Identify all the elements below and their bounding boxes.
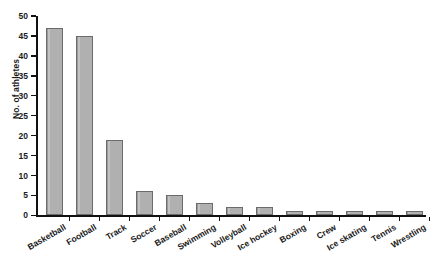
y-tick-label: 30 (19, 91, 28, 100)
y-tick-label: 20 (19, 131, 28, 140)
x-tick (339, 217, 340, 221)
y-tick: 20 (31, 135, 36, 136)
y-tick: 35 (31, 75, 36, 76)
x-tick-label-text: Basketball (26, 222, 68, 252)
x-tick-label: Basketball (26, 222, 68, 252)
bar (136, 191, 153, 215)
y-tick-label: 35 (19, 72, 28, 81)
bar-chart: No. of athletes 05101520253035404550 Bas… (0, 0, 432, 272)
x-tick (309, 217, 310, 221)
y-tick: 30 (31, 95, 36, 96)
x-tick (189, 217, 190, 221)
x-tick (219, 217, 220, 221)
y-tick: 45 (31, 35, 36, 36)
bar (46, 28, 63, 215)
y-tick: 40 (31, 55, 36, 56)
y-tick-label: 15 (19, 151, 28, 160)
x-tick (399, 217, 400, 221)
bar (196, 203, 213, 215)
x-tick-label-text: Track (104, 222, 128, 242)
y-tick: 15 (31, 155, 36, 156)
x-tick-label-text: Football (64, 222, 98, 247)
y-tick: 25 (31, 115, 36, 116)
y-tick-label: 50 (19, 12, 28, 21)
y-tick-label: 5 (23, 191, 28, 200)
x-tick (129, 217, 130, 221)
x-tick (249, 217, 250, 221)
x-tick-label: Football (64, 222, 98, 247)
y-tick-label: 25 (19, 111, 28, 120)
x-tick (429, 217, 430, 221)
bar (106, 140, 123, 216)
bar (256, 207, 273, 215)
y-tick-label: 45 (19, 32, 28, 41)
x-tick-label: Track (104, 222, 128, 242)
x-tick-label: Boxing (278, 222, 308, 245)
y-tick: 5 (31, 195, 36, 196)
bar (226, 207, 243, 215)
y-axis-line (36, 16, 38, 217)
x-tick-label-text: Boxing (278, 222, 308, 245)
x-tick (159, 217, 160, 221)
y-tick-label: 40 (19, 52, 28, 61)
bar (376, 211, 393, 215)
bar (406, 211, 423, 215)
x-tick (369, 217, 370, 221)
x-tick (279, 217, 280, 221)
x-tick (69, 217, 70, 221)
y-tick-label: 0 (23, 211, 28, 220)
x-axis-line (36, 215, 426, 217)
y-tick-label: 10 (19, 171, 28, 180)
y-tick: 10 (31, 175, 36, 176)
x-tick (99, 217, 100, 221)
y-tick: 0 (31, 215, 36, 216)
bar (166, 195, 183, 215)
plot-area: 05101520253035404550 (36, 16, 426, 217)
bar (286, 211, 303, 215)
bar (76, 36, 93, 215)
bar (316, 211, 333, 215)
y-tick: 50 (31, 15, 36, 16)
bar (346, 211, 363, 215)
